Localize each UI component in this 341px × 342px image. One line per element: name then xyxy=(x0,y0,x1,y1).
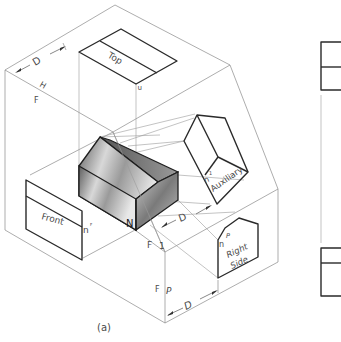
fold-line-hf: H F xyxy=(34,80,48,105)
n-h-label: n xyxy=(138,84,142,92)
h-fold-label: H xyxy=(38,80,48,91)
d-side-label: D xyxy=(182,298,194,311)
f-fold-label-aux: F xyxy=(147,240,152,250)
top-view-label: Top xyxy=(105,50,124,67)
dimension-d-side: D xyxy=(167,280,218,316)
front-view-label: Front xyxy=(40,211,65,227)
n-side-sub: P xyxy=(226,232,230,240)
fold-line-fp: F P xyxy=(155,285,172,296)
p-fold-label: P xyxy=(166,286,172,296)
right-side-view: Right Side n P xyxy=(218,218,258,278)
d-aux-label: D xyxy=(177,211,188,224)
n-aux-sub: 1 xyxy=(209,170,212,176)
top-view: Top n xyxy=(79,29,177,92)
glass-box-projection-diagram: Top n Front n F N Auxiliary n 1 Right xyxy=(0,0,341,342)
one-fold-label: 1 xyxy=(159,241,165,251)
f-fold-label-side: F xyxy=(155,285,160,294)
n-aux-label: n xyxy=(203,175,211,185)
figure-caption: (a) xyxy=(97,322,111,333)
house-object: N xyxy=(79,137,178,230)
partial-figure-b xyxy=(321,42,341,296)
n-object-label: N xyxy=(126,218,133,229)
f-fold-label-top: F xyxy=(34,96,39,105)
d-top-label: D xyxy=(31,54,43,68)
n-side-label: n xyxy=(219,240,224,249)
n-front-sub: F xyxy=(90,222,93,227)
auxiliary-view-label: Auxiliary xyxy=(208,164,244,193)
n-front-label: n xyxy=(83,225,89,235)
dimension-d-top: D xyxy=(15,43,66,73)
auxiliary-view: Auxiliary n 1 xyxy=(184,115,248,204)
